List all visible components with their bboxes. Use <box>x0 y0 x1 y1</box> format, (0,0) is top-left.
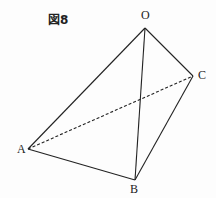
tetrahedron-diagram: 図8 O A B C <box>0 0 216 198</box>
vertex-label-b: B <box>130 182 138 197</box>
edge-ac-hidden <box>28 76 193 149</box>
edge-ob <box>135 28 145 180</box>
edge-ab <box>28 149 135 180</box>
edge-bc <box>135 76 193 180</box>
vertex-label-a: A <box>17 142 26 157</box>
vertex-label-o: O <box>141 8 150 23</box>
edge-oa <box>28 28 145 149</box>
figure-label: 図8 <box>48 10 68 27</box>
vertex-label-c: C <box>198 68 206 83</box>
edge-oc <box>145 28 193 76</box>
tetrahedron-drawing <box>0 0 216 198</box>
